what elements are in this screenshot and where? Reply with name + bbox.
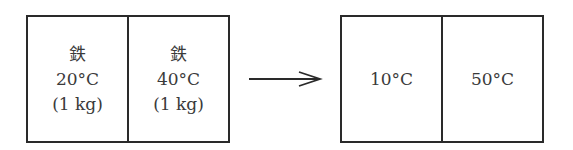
iron-block-left: 鉄 20°C (1 kg) <box>28 17 127 141</box>
final-state-container: 10°C 50°C <box>340 15 544 143</box>
block-right-after: 50°C <box>441 17 542 141</box>
material-label: 鉄 <box>69 42 86 67</box>
temperature-label: 50°C <box>471 67 514 92</box>
iron-block-right: 鉄 40°C (1 kg) <box>127 17 228 141</box>
temperature-label: 40°C <box>157 67 200 92</box>
block-left-after: 10°C <box>342 17 441 141</box>
temperature-label: 20°C <box>56 67 99 92</box>
temperature-label: 10°C <box>370 67 413 92</box>
mass-label: (1 kg) <box>153 92 204 117</box>
initial-state-container: 鉄 20°C (1 kg) 鉄 40°C (1 kg) <box>26 15 230 143</box>
material-label: 鉄 <box>170 42 187 67</box>
mass-label: (1 kg) <box>52 92 103 117</box>
right-arrow-icon <box>247 69 323 89</box>
